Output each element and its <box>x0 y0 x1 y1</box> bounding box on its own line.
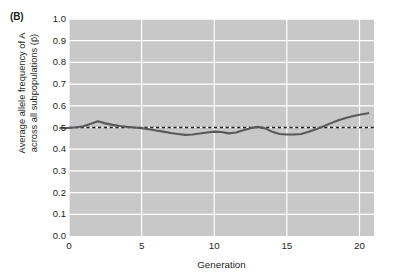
x-axis-title: Generation <box>69 259 374 270</box>
y-tick-label: 0.7 <box>40 78 66 89</box>
x-tick-label: 5 <box>127 240 157 251</box>
y-tick-label: 1.0 <box>40 13 66 24</box>
plot-area <box>69 19 374 236</box>
x-tick-label: 15 <box>272 240 302 251</box>
y-tick-label: 0.1 <box>40 208 66 219</box>
x-tick-label: 10 <box>199 240 229 251</box>
data-plot <box>69 19 374 236</box>
y-tick-label: 0.5 <box>40 122 66 133</box>
x-tick-label: 20 <box>344 240 374 251</box>
chart-figure: (B) Average allele frequency of A across… <box>0 0 398 280</box>
y-tick-label: 0.2 <box>40 187 66 198</box>
y-tick-label: 0.4 <box>40 143 66 154</box>
y-tick-label: 0.9 <box>40 35 66 46</box>
y-tick-label: 0.6 <box>40 100 66 111</box>
y-tick-label: 0.3 <box>40 165 66 176</box>
y-tick-label: 0.8 <box>40 56 66 67</box>
x-tick-label: 0 <box>54 240 84 251</box>
horizontal-gridlines <box>69 19 374 214</box>
